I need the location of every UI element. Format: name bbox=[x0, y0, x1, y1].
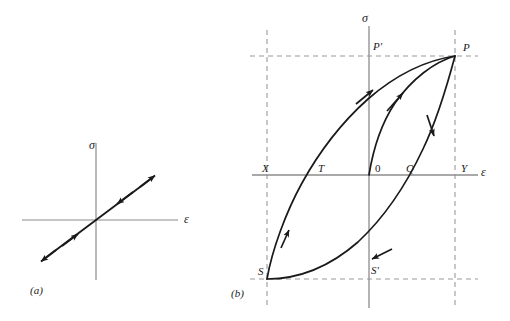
panel-b-label-P-prime: P' bbox=[373, 41, 382, 52]
panel-b-label-S-prime: S' bbox=[371, 265, 379, 276]
panel-b-inner-branch bbox=[369, 56, 455, 175]
stress-strain-figure bbox=[0, 0, 510, 321]
panel-a-elastic-line bbox=[44, 178, 152, 259]
panel-a bbox=[22, 143, 178, 280]
panel-b-epsilon-label: ε bbox=[481, 166, 486, 178]
panel-b-label-origin: 0 bbox=[375, 163, 381, 174]
panel-b-unloading-branch bbox=[267, 56, 455, 279]
panel-b-label-T: T bbox=[318, 163, 324, 174]
panel-b-label-S: S bbox=[258, 266, 264, 277]
panel-b-label-Y: Y bbox=[461, 163, 467, 174]
panel-b-arrow-inner bbox=[387, 93, 403, 111]
panel-b-arrow-unloading-lower bbox=[372, 249, 392, 259]
panel-a-sigma-label: σ bbox=[89, 139, 95, 151]
panel-b-arrow-loading-lower bbox=[281, 230, 289, 248]
panel-b-label-X: X bbox=[262, 163, 269, 174]
panel-b-sigma-label: σ bbox=[362, 12, 368, 24]
panel-a-arrow-mid-down bbox=[117, 192, 133, 204]
panel-b-loading-branch bbox=[267, 56, 455, 279]
panel-a-epsilon-label: ε bbox=[184, 213, 189, 225]
panel-b-label-P: P bbox=[463, 42, 470, 53]
panel-a-arrow-end-upper bbox=[140, 176, 155, 188]
panel-b bbox=[250, 26, 478, 308]
panel-b-caption: (b) bbox=[231, 288, 244, 299]
panel-a-arrow-end-lower bbox=[41, 250, 56, 262]
panel-a-arrow-mid-up bbox=[62, 234, 78, 246]
panel-a-caption: (a) bbox=[30, 285, 43, 296]
panel-b-label-Q: Q bbox=[406, 163, 414, 174]
